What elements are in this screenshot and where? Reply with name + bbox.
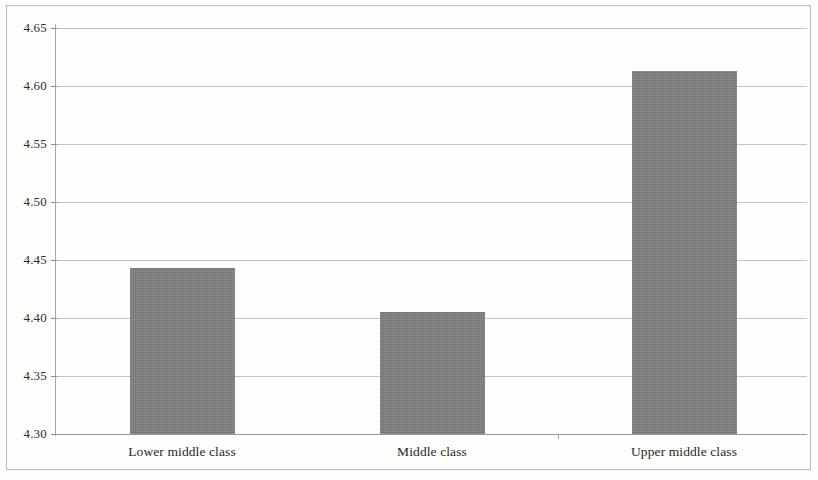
y-axis-tick-labels: 4.654.604.554.504.454.404.354.30 xyxy=(7,28,47,434)
x-axis-tick-label: Middle class xyxy=(397,444,467,460)
y-axis-tick-mark xyxy=(51,318,57,319)
y-axis-tick-label: 4.50 xyxy=(7,194,47,210)
x-axis-tick-label: Lower middle class xyxy=(128,444,236,460)
y-axis-tick-label: 4.65 xyxy=(7,20,47,36)
chart-figure: 4.654.604.554.504.454.404.354.30 Lower m… xyxy=(0,0,818,480)
x-axis-tick-mark xyxy=(558,434,559,439)
y-axis-tick-label: 4.40 xyxy=(7,310,47,326)
bar xyxy=(130,268,235,434)
y-axis-tick-mark xyxy=(51,202,57,203)
plot-area xyxy=(55,28,807,434)
y-axis-tick-mark xyxy=(51,434,57,435)
figure-frame: 4.654.604.554.504.454.404.354.30 Lower m… xyxy=(6,5,811,470)
x-axis-tick-label: Upper middle class xyxy=(631,444,737,460)
y-axis-tick-mark xyxy=(51,260,57,261)
y-axis-tick-mark xyxy=(51,376,57,377)
y-axis-tick-label: 4.55 xyxy=(7,136,47,152)
y-axis-tick-mark xyxy=(51,144,57,145)
y-axis-tick-mark xyxy=(51,28,57,29)
y-axis-tick-label: 4.60 xyxy=(7,78,47,94)
y-axis-tick-label: 4.45 xyxy=(7,252,47,268)
bar xyxy=(380,312,485,434)
gridline xyxy=(55,28,807,29)
gridline xyxy=(55,434,807,435)
y-axis-tick-label: 4.35 xyxy=(7,368,47,384)
y-axis-tick-label: 4.30 xyxy=(7,426,47,442)
y-axis-tick-mark xyxy=(51,86,57,87)
bar xyxy=(632,71,737,434)
